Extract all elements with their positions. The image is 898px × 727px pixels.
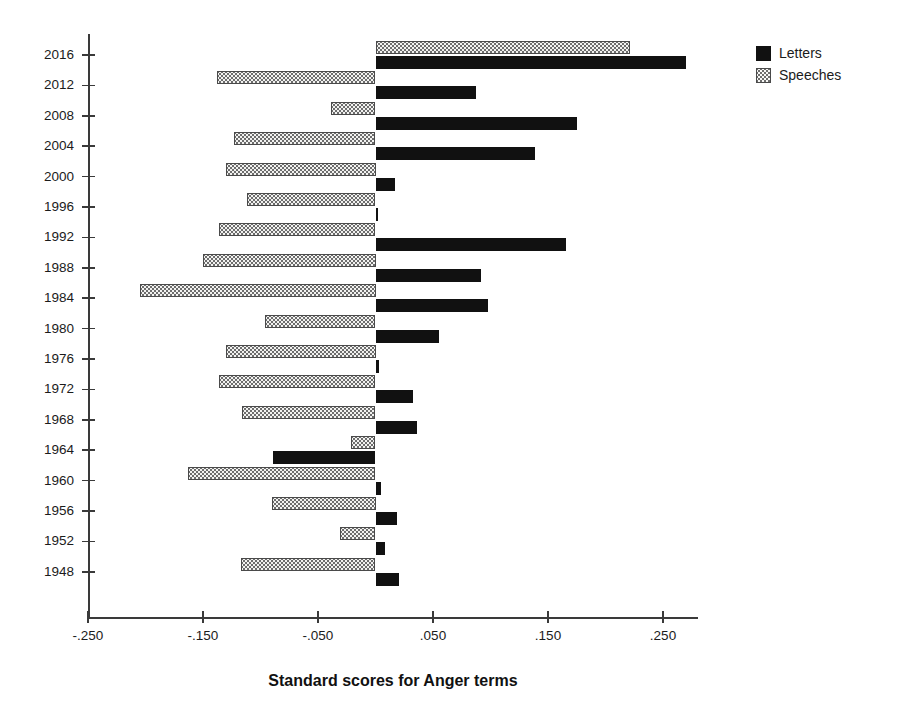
y-axis-tick-label-text: 1960 bbox=[16, 474, 74, 488]
x-axis-tick bbox=[662, 611, 664, 623]
bar-letters bbox=[273, 451, 375, 464]
bar-letters bbox=[376, 573, 399, 586]
y-axis-tick bbox=[82, 54, 95, 56]
y-axis-tick-label: 2004 bbox=[14, 139, 74, 153]
bar-speeches bbox=[247, 193, 376, 206]
legend-swatch-speeches-icon bbox=[756, 68, 771, 83]
y-axis-tick-label-text: 1988 bbox=[16, 261, 74, 275]
y-axis-tick bbox=[82, 449, 95, 451]
y-axis-tick-label: 2008 bbox=[14, 109, 74, 123]
bar-speeches bbox=[226, 163, 376, 176]
x-axis-tick-label: .050 bbox=[393, 628, 473, 643]
y-axis-tick-label-text: 1956 bbox=[16, 504, 74, 518]
y-axis-tick bbox=[82, 419, 95, 421]
bar-letters bbox=[376, 178, 396, 191]
y-axis-tick-label: 1980 bbox=[14, 322, 74, 336]
y-axis-tick-label: 2000 bbox=[14, 170, 74, 184]
y-axis-tick-label-text: 2004 bbox=[16, 139, 74, 153]
x-axis-tick bbox=[317, 611, 319, 623]
legend-label-speeches: Speeches bbox=[779, 68, 841, 83]
legend-label-letters: Letters bbox=[779, 46, 822, 61]
bar-speeches bbox=[188, 467, 375, 480]
y-axis-tick-label-text: 1992 bbox=[16, 230, 74, 244]
bar-speeches bbox=[242, 406, 375, 419]
y-axis-tick-label-text: 1964 bbox=[16, 443, 74, 457]
y-axis-tick-label-text: 1968 bbox=[16, 413, 74, 427]
y-axis-tick bbox=[82, 297, 95, 299]
y-axis-tick-label: 2016 bbox=[14, 48, 74, 62]
x-axis-tick bbox=[432, 611, 434, 623]
y-axis-tick bbox=[82, 115, 95, 117]
y-axis-tick bbox=[82, 267, 95, 269]
y-axis-tick bbox=[82, 176, 95, 178]
x-axis-tick-label: .150 bbox=[508, 628, 588, 643]
x-axis-tick bbox=[547, 611, 549, 623]
y-axis-tick-label-text: 2008 bbox=[16, 109, 74, 123]
y-axis-tick-label: 1992 bbox=[14, 230, 74, 244]
x-axis-tick-label: -.250 bbox=[48, 628, 128, 643]
y-axis-tick-label: 1960 bbox=[14, 474, 74, 488]
bar-letters bbox=[376, 147, 536, 160]
y-axis-tick bbox=[82, 237, 95, 239]
y-axis-tick bbox=[82, 480, 95, 482]
y-axis-tick-label-text: 1952 bbox=[16, 534, 74, 548]
x-axis-tick bbox=[202, 611, 204, 623]
x-axis-tick-label: -.150 bbox=[163, 628, 243, 643]
y-axis-tick-label: 1956 bbox=[14, 504, 74, 518]
bar-letters bbox=[376, 360, 379, 373]
bar-speeches bbox=[203, 254, 376, 267]
y-axis-tick-label-text: 1996 bbox=[16, 200, 74, 214]
y-axis-tick-label: 1964 bbox=[14, 443, 74, 457]
y-axis-tick bbox=[82, 389, 95, 391]
y-axis-tick-label-text: 1980 bbox=[16, 322, 74, 336]
y-axis-tick bbox=[82, 85, 95, 87]
y-axis-tick-label: 1976 bbox=[14, 352, 74, 366]
legend-item-letters: Letters bbox=[756, 44, 841, 62]
x-axis-tick bbox=[87, 611, 89, 623]
bar-speeches bbox=[234, 132, 375, 145]
y-axis-tick-label-text: 1948 bbox=[16, 565, 74, 579]
bar-letters bbox=[376, 269, 482, 282]
bar-letters bbox=[376, 238, 567, 251]
bar-speeches bbox=[272, 497, 376, 510]
y-axis-tick-label: 1952 bbox=[14, 534, 74, 548]
y-axis-line bbox=[88, 34, 90, 618]
y-axis-tick bbox=[82, 145, 95, 147]
bar-speeches bbox=[376, 41, 630, 54]
anger-terms-bar-chart: 2016201220082004200019961992198819841980… bbox=[0, 0, 898, 727]
bar-letters bbox=[376, 117, 577, 130]
y-axis-tick-label: 1996 bbox=[14, 200, 74, 214]
bar-speeches bbox=[140, 284, 376, 297]
bar-letters bbox=[376, 421, 417, 434]
bar-speeches bbox=[219, 223, 375, 236]
legend-swatch-letters-icon bbox=[756, 46, 771, 61]
bar-letters bbox=[376, 482, 382, 495]
y-axis-tick bbox=[82, 510, 95, 512]
y-axis-tick bbox=[82, 571, 95, 573]
y-axis-tick bbox=[82, 328, 95, 330]
y-axis-tick-label-text: 1984 bbox=[16, 291, 74, 305]
legend: Letters Speeches bbox=[756, 44, 841, 88]
y-axis-tick-label: 1972 bbox=[14, 382, 74, 396]
y-axis-tick-label-text: 2012 bbox=[16, 78, 74, 92]
legend-item-speeches: Speeches bbox=[756, 66, 841, 84]
bar-letters bbox=[376, 208, 378, 221]
bar-speeches bbox=[331, 102, 376, 115]
bar-speeches bbox=[226, 345, 376, 358]
x-axis-tick-label: -.050 bbox=[278, 628, 358, 643]
y-axis-tick-label-text: 1972 bbox=[16, 382, 74, 396]
bar-letters bbox=[376, 330, 439, 343]
bar-letters bbox=[376, 390, 414, 403]
bar-speeches bbox=[340, 527, 376, 540]
y-axis-tick-label: 1988 bbox=[14, 261, 74, 275]
x-axis-tick-label: .250 bbox=[623, 628, 703, 643]
bar-speeches bbox=[265, 315, 375, 328]
y-axis-tick-label: 1984 bbox=[14, 291, 74, 305]
y-axis-tick bbox=[82, 541, 95, 543]
y-axis-tick-label-text: 1976 bbox=[16, 352, 74, 366]
x-axis-title: Standard scores for Anger terms bbox=[88, 672, 698, 690]
y-axis-tick-label-text: 2016 bbox=[16, 48, 74, 62]
bar-letters bbox=[376, 56, 687, 69]
bar-letters bbox=[376, 512, 398, 525]
bar-letters bbox=[376, 542, 385, 555]
